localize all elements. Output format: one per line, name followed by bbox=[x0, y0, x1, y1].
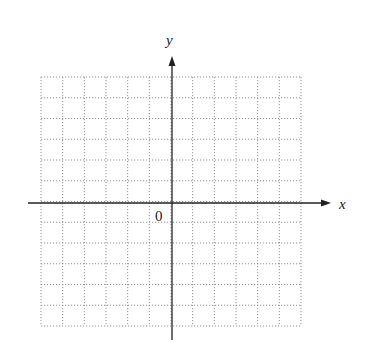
x-axis-label: x bbox=[338, 196, 346, 212]
grid-lines bbox=[41, 77, 301, 326]
y-axis-label: y bbox=[164, 32, 173, 48]
origin-label: 0 bbox=[155, 208, 163, 224]
x-axis-arrow-icon bbox=[321, 200, 331, 207]
y-axis-arrow-icon bbox=[169, 56, 176, 66]
coordinate-plane: x y 0 bbox=[0, 0, 365, 352]
